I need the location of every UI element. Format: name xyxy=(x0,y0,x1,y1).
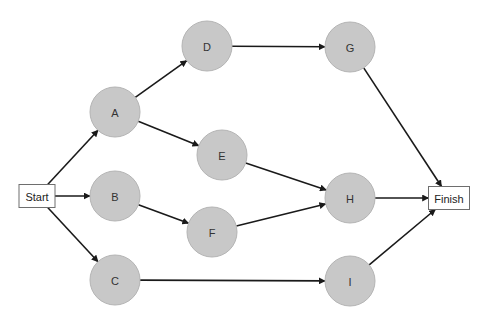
edge-A-to-D xyxy=(135,61,186,98)
node-h: H xyxy=(325,173,375,223)
node-label: G xyxy=(346,42,355,54)
edge-start-to-A xyxy=(48,130,98,184)
edge-I-to-finish xyxy=(369,210,435,265)
node-e: E xyxy=(197,130,247,180)
edge-start-to-C xyxy=(48,208,98,262)
node-start: Start xyxy=(19,185,55,208)
node-finish: Finish xyxy=(429,187,470,210)
node-d: D xyxy=(182,21,232,71)
node-label: C xyxy=(111,275,119,287)
edge-B-to-F xyxy=(138,205,188,224)
node-a: A xyxy=(90,87,140,137)
node-f: F xyxy=(187,207,237,257)
node-label: Finish xyxy=(434,193,463,205)
node-b: B xyxy=(90,171,140,221)
network-diagram: StartABCDEFGHIFinish xyxy=(0,0,486,323)
nodes-layer: StartABCDEFGHIFinish xyxy=(19,21,470,306)
edge-C-to-I xyxy=(140,280,325,281)
node-label: H xyxy=(346,193,354,205)
node-c: C xyxy=(90,255,140,305)
node-label: Start xyxy=(25,191,48,203)
node-label: I xyxy=(348,276,351,288)
edge-D-to-G xyxy=(232,46,325,47)
edge-F-to-H xyxy=(236,204,325,226)
node-label: F xyxy=(209,227,216,239)
node-label: A xyxy=(111,107,119,119)
node-label: D xyxy=(203,41,211,53)
edge-E-to-H xyxy=(246,163,327,190)
node-i: I xyxy=(325,256,375,306)
edge-G-to-finish xyxy=(364,68,442,187)
edge-A-to-E xyxy=(138,121,199,145)
node-g: G xyxy=(325,22,375,72)
node-label: B xyxy=(111,191,118,203)
node-label: E xyxy=(218,150,225,162)
